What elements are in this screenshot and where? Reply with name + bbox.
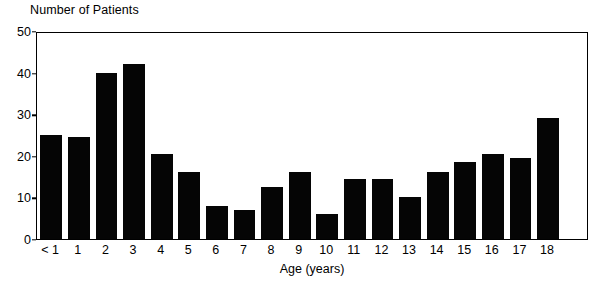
bar xyxy=(316,214,338,239)
x-axis-ticks: < 1123456789101112131415161718 xyxy=(36,243,588,261)
bar-chart-figure: Number of Patients 01020304050 < 1123456… xyxy=(0,0,602,288)
bar xyxy=(427,172,449,239)
bar xyxy=(68,137,90,239)
x-axis-tick-label: 9 xyxy=(295,243,302,257)
x-axis-tick-label: 13 xyxy=(402,243,416,257)
y-axis-tick-label: 30 xyxy=(17,109,31,121)
bars-layer xyxy=(37,33,587,239)
x-axis-tick-label: 18 xyxy=(540,243,554,257)
x-axis-title: Age (years) xyxy=(36,262,588,277)
x-axis-tick-label: 1 xyxy=(74,243,81,257)
x-axis-tick-label: 8 xyxy=(268,243,275,257)
plot-area xyxy=(36,32,588,240)
bar xyxy=(537,118,559,239)
bar xyxy=(123,64,145,239)
x-axis-tick-label: 4 xyxy=(157,243,164,257)
bar xyxy=(178,172,200,239)
bar xyxy=(234,210,256,239)
bar xyxy=(151,154,173,239)
bar xyxy=(372,179,394,239)
y-axis-tick-label: 50 xyxy=(17,26,31,38)
bar xyxy=(482,154,504,239)
bar xyxy=(206,206,228,239)
x-axis-tick-label: 16 xyxy=(485,243,499,257)
bar xyxy=(510,158,532,239)
y-axis-tick-label: 10 xyxy=(17,192,31,204)
bar xyxy=(261,187,283,239)
x-axis-tick-label: 10 xyxy=(319,243,333,257)
y-axis-tick-label: 40 xyxy=(17,68,31,80)
x-axis-tick-label: 7 xyxy=(240,243,247,257)
x-axis-tick-label: 2 xyxy=(102,243,109,257)
x-axis-tick-label: 6 xyxy=(212,243,219,257)
y-axis-title: Number of Patients xyxy=(30,2,139,18)
bar xyxy=(40,135,62,239)
x-axis-tick-label: 14 xyxy=(430,243,444,257)
x-axis-tick-label: 11 xyxy=(347,243,360,257)
bar xyxy=(454,162,476,239)
y-axis-ticks: 01020304050 xyxy=(0,0,36,288)
x-axis-tick-label: 12 xyxy=(374,243,388,257)
x-axis-tick-label: < 1 xyxy=(41,243,59,257)
x-axis-tick-label: 15 xyxy=(457,243,471,257)
x-axis-tick-label: 3 xyxy=(130,243,137,257)
x-axis-tick-label: 17 xyxy=(512,243,526,257)
bar xyxy=(96,73,118,239)
bar xyxy=(344,179,366,239)
bar xyxy=(399,197,421,239)
x-axis-tick-label: 5 xyxy=(185,243,192,257)
y-axis-tick-label: 0 xyxy=(24,234,31,246)
bar xyxy=(289,172,311,239)
y-axis-tick-label: 20 xyxy=(17,151,31,163)
